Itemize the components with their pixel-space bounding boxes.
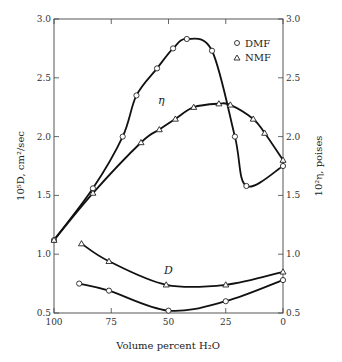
legend-circle-icon [235, 41, 240, 46]
x-tick-label: 25 [220, 317, 232, 327]
y-axis-right-label: 10²η, poises [313, 136, 324, 197]
triangle-marker-icon [78, 241, 84, 246]
circle-marker-icon [232, 134, 237, 139]
circle-marker-icon [209, 48, 214, 53]
y-left-tick-label: 0.5 [37, 308, 52, 318]
circle-marker-icon [166, 308, 171, 313]
y-right-tick-label: 1.5 [286, 190, 301, 200]
x-tick-label: 75 [106, 317, 118, 327]
y-left-tick-label: 2.5 [37, 73, 52, 83]
circle-marker-icon [134, 93, 139, 98]
circle-marker-icon [244, 183, 249, 188]
circle-marker-icon [223, 299, 228, 304]
y-right-tick-label: 3.0 [286, 14, 301, 24]
x-tick-label: 50 [163, 317, 175, 327]
y-left-tick-label: 1.0 [37, 249, 52, 259]
d-curve-label: D [163, 264, 173, 277]
eta-curve-label: η [158, 94, 165, 107]
y-axis-left-label: 10⁵D, cm²/sec [15, 131, 26, 201]
legend: DMF NMF [234, 38, 271, 63]
x-tick-label: 100 [45, 317, 62, 327]
legend-dmf-label: DMF [245, 38, 270, 49]
y-right-tick-label: 0.5 [286, 308, 301, 318]
circle-marker-icon [77, 281, 82, 286]
circle-marker-icon [280, 277, 285, 282]
series-curve [79, 280, 283, 311]
y-left-tick-label: 3.0 [37, 14, 52, 24]
y-right-tick-label: 2.0 [286, 132, 301, 142]
x-axis-label: Volume percent H₂O [115, 340, 220, 351]
circle-marker-icon [184, 36, 189, 41]
y-left-tick-label: 2.0 [37, 132, 52, 142]
legend-nmf-label: NMF [245, 52, 271, 63]
series-curve [81, 244, 283, 287]
legend-triangle-icon [234, 55, 240, 60]
circle-marker-icon [280, 163, 285, 168]
chart: 10075502500.51.01.52.02.53.00.51.01.52.0… [0, 0, 342, 362]
y-right-tick-label: 2.5 [286, 73, 301, 83]
x-tick-label: 0 [280, 317, 286, 327]
series-curve [54, 103, 283, 240]
circle-marker-icon [120, 134, 125, 139]
circle-marker-icon [154, 66, 159, 71]
y-right-tick-label: 1.0 [286, 249, 301, 259]
circle-marker-icon [106, 288, 111, 293]
series-curve [54, 39, 283, 240]
circle-marker-icon [170, 46, 175, 51]
y-left-tick-label: 1.5 [37, 190, 52, 200]
